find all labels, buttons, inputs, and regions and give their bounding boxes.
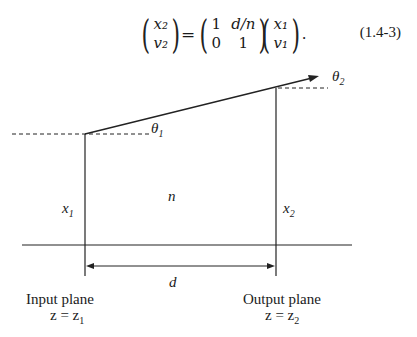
refractive-index-label: n	[168, 188, 176, 205]
ray-line	[85, 78, 312, 134]
ray-arrowhead-icon	[308, 75, 319, 82]
ray-diagram	[0, 0, 417, 337]
x1-label: x1	[62, 200, 74, 219]
theta1-label: θ1	[151, 120, 163, 139]
input-plane-label: Input plane	[26, 291, 94, 308]
distance-arrow-left-icon	[86, 263, 94, 269]
theta2-label: θ2	[332, 68, 344, 87]
x2-label: x2	[283, 200, 295, 219]
distance-arrow-right-icon	[267, 263, 275, 269]
output-plane-equation: z = z2	[265, 307, 299, 326]
output-plane-label: Output plane	[243, 291, 321, 308]
distance-label: d	[169, 274, 177, 291]
input-plane-equation: z = z1	[50, 307, 84, 326]
